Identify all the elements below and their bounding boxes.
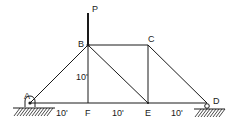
dimension-fe: 10': [112, 108, 124, 118]
node-label-f: F: [85, 108, 91, 118]
node-label-a: A: [24, 91, 30, 101]
node-label-e: E: [145, 108, 151, 118]
member-be: [88, 45, 148, 103]
dimension-ed: 10': [171, 108, 183, 118]
member-cd: [148, 45, 207, 103]
roller-support-icon: [194, 104, 225, 117]
node-label-d: D: [213, 96, 220, 106]
dimension-af: 10': [56, 108, 68, 118]
dimension-bf: 10': [76, 72, 88, 82]
node-label-c: C: [148, 34, 155, 44]
node-label-b: B: [78, 39, 84, 49]
load-label: P: [92, 4, 98, 14]
joint-e: [147, 102, 149, 104]
truss-diagram: P A B C D E F 10' 10' 10: [0, 0, 236, 128]
